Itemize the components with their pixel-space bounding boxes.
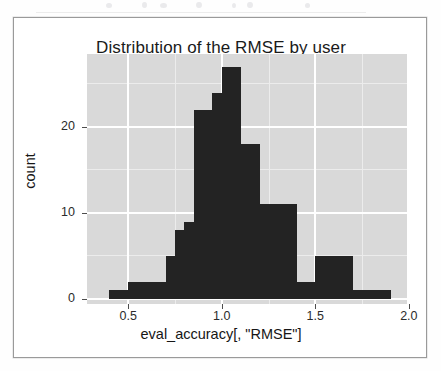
scan-artifact (106, 3, 112, 8)
gridline-horizontal-minor (87, 83, 407, 84)
y-axis-title: count (22, 111, 38, 231)
scan-artifact (160, 3, 167, 8)
y-axis-tick (82, 127, 87, 128)
y-axis-tick-label: 10 (43, 205, 75, 219)
x-axis-tick-label: 1.5 (290, 309, 340, 323)
y-axis-tick-label: 20 (43, 119, 75, 133)
x-axis-title: eval_accuracy[, "RMSE"] (14, 326, 428, 342)
scan-artifact (142, 2, 147, 8)
plot-panel (87, 54, 407, 304)
chart-figure: Distribution of the RMSE by user 0.51.01… (13, 17, 427, 358)
x-axis-tick-label: 0.5 (103, 309, 153, 323)
scan-artifact (36, 12, 366, 13)
x-axis-tick-label: 2.0 (384, 309, 434, 323)
y-axis-tick (82, 299, 87, 300)
y-axis-tick (82, 213, 87, 214)
y-axis-tick-label: 0 (43, 291, 75, 305)
scan-artifact (232, 3, 236, 8)
gridline-horizontal-major (87, 126, 407, 128)
scanned-page: Distribution of the RMSE by user 0.51.01… (0, 0, 441, 371)
scan-artifact (196, 2, 202, 8)
gridline-vertical-major (127, 54, 129, 304)
histogram-bar (381, 290, 391, 299)
scan-artifact (305, 3, 310, 8)
x-axis-tick-label: 1.0 (197, 309, 247, 323)
gridline-vertical-minor (362, 54, 363, 304)
scan-artifact (247, 2, 253, 8)
